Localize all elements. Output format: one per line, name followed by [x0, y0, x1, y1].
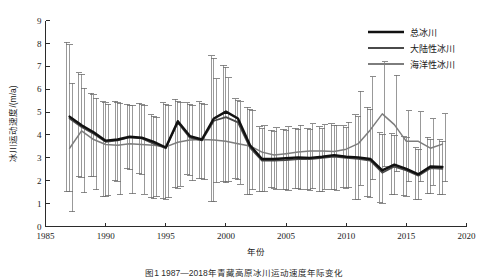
- legend-label: 总冰川: [410, 27, 437, 38]
- legend: 总冰川大陆性冰川海洋性冰川: [368, 27, 455, 70]
- x-tick-label: 2005: [277, 231, 296, 241]
- y-tick-label: 1: [37, 199, 42, 209]
- x-tick-label: 2000: [217, 231, 236, 241]
- series-lines-layer: [70, 112, 443, 176]
- x-tick-label: 1985: [37, 231, 56, 241]
- x-tick-label: 2015: [397, 231, 416, 241]
- y-tick-label: 7: [37, 61, 42, 71]
- figure-caption: 图1 1987—2018年青藏高原冰川运动速度年际变化: [0, 268, 488, 279]
- y-tick-label: 9: [37, 16, 42, 26]
- errorbar-layer: [64, 42, 448, 211]
- y-tick-label: 4: [37, 130, 42, 140]
- x-axis-title: 年份: [247, 247, 265, 257]
- glacier-velocity-line-chart: 0123456789198519901995200020052010201520…: [0, 0, 488, 280]
- x-tick-label: 1990: [97, 231, 116, 241]
- figure-container: 0123456789198519901995200020052010201520…: [0, 0, 488, 280]
- x-tick-label: 2010: [337, 231, 356, 241]
- y-tick-label: 6: [37, 84, 42, 94]
- y-tick-label: 8: [37, 39, 42, 49]
- legend-label: 海洋性冰川: [410, 59, 455, 70]
- x-tick-label: 1995: [157, 231, 176, 241]
- y-tick-label: 2: [37, 176, 42, 186]
- y-axis-title: 冰川运动速度/(m/a): [8, 85, 18, 161]
- legend-label: 大陆性冰川: [410, 43, 455, 54]
- x-tick-label: 2020: [458, 231, 477, 241]
- y-tick-label: 3: [37, 153, 42, 163]
- y-tick-label: 5: [37, 107, 42, 117]
